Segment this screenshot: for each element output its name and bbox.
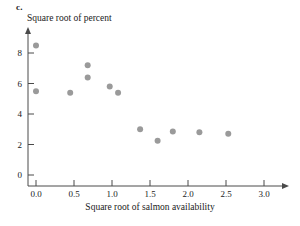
data-point-group <box>33 42 231 143</box>
y-tick-label: 4 <box>18 109 23 119</box>
scatter-plot-figure: c. Square root of percent 0.00.51.01.52.… <box>0 0 300 226</box>
x-tick-label: 1.0 <box>106 189 118 199</box>
x-tick-label: 0.5 <box>68 189 80 199</box>
y-tick-label: 6 <box>18 79 23 89</box>
x-tick-label: 2.5 <box>220 189 232 199</box>
data-point <box>115 90 121 96</box>
data-point <box>170 129 176 135</box>
y-axis-ticks: 02468 <box>18 48 35 180</box>
data-point <box>85 74 91 80</box>
y-tick-label: 2 <box>18 140 23 150</box>
data-point <box>107 84 113 90</box>
data-point <box>155 138 161 144</box>
data-point <box>137 126 143 132</box>
x-axis-label: Square root of salmon availability <box>0 202 300 212</box>
x-tick-label: 1.5 <box>144 189 156 199</box>
x-axis-ticks: 0.00.51.01.52.02.53.0 <box>30 180 270 199</box>
y-tick-label: 8 <box>18 48 23 58</box>
x-tick-label: 0.0 <box>30 189 42 199</box>
data-point <box>85 62 91 68</box>
y-tick-label: 0 <box>18 170 23 180</box>
data-point <box>225 131 231 137</box>
plot-area: 0.00.51.01.52.02.53.0 02468 <box>0 0 300 226</box>
data-point <box>33 42 39 48</box>
data-point <box>33 88 39 94</box>
x-tick-label: 2.0 <box>182 189 194 199</box>
x-tick-label: 3.0 <box>258 189 270 199</box>
data-point <box>67 90 73 96</box>
data-point <box>196 129 202 135</box>
